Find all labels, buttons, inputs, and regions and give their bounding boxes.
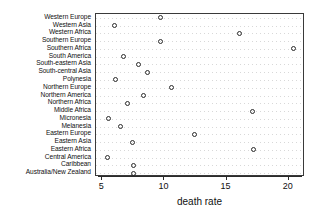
category-label: Central America: [45, 153, 91, 160]
x-axis-tick: [101, 176, 102, 180]
x-axis-line: [98, 176, 302, 177]
data-point: [136, 62, 141, 67]
data-point: [145, 70, 150, 75]
data-point: [125, 101, 130, 106]
category-axis-labels: Western EuropeWestern AsiaWestern Africa…: [0, 0, 94, 178]
data-point: [237, 31, 242, 36]
data-point: [158, 39, 163, 44]
category-label: Southern Europe: [42, 36, 91, 43]
data-point: [121, 54, 126, 59]
category-label: Middle Africa: [54, 106, 91, 113]
category-label: Southern Africa: [47, 44, 91, 51]
category-label: Eastern Asia: [55, 137, 91, 144]
data-point: [250, 109, 255, 114]
data-point: [106, 116, 111, 121]
category-label: Western Europe: [44, 13, 91, 20]
x-axis-tick-label: 5: [89, 181, 113, 191]
data-point: [158, 15, 163, 20]
data-point: [291, 46, 296, 51]
plot-panel: [95, 13, 304, 176]
data-point: [131, 163, 136, 168]
data-point: [192, 132, 197, 137]
category-label: Eastern Africa: [51, 145, 91, 152]
category-label: Micronesia: [60, 114, 91, 121]
category-label: South America: [49, 52, 91, 59]
x-axis-tick-label: 20: [276, 181, 300, 191]
category-label: Eastern Europe: [46, 129, 91, 136]
category-label: Australia/New Zealand: [26, 168, 91, 175]
category-label: Northern Europe: [43, 83, 91, 90]
data-point: [130, 140, 135, 145]
x-axis-tick-label: 10: [151, 181, 175, 191]
x-axis-tick: [288, 176, 289, 180]
category-label: South-central Asia: [38, 67, 91, 74]
data-point: [105, 155, 110, 160]
data-point: [113, 77, 118, 82]
category-label: Caribbean: [61, 160, 91, 167]
dotchart-figure: Western EuropeWestern AsiaWestern Africa…: [0, 0, 312, 215]
category-label: Melanesia: [61, 122, 91, 129]
data-point: [169, 85, 174, 90]
data-point: [141, 93, 146, 98]
data-point: [251, 147, 256, 152]
data-point: [112, 23, 117, 28]
x-axis-title: death rate: [95, 196, 304, 208]
category-label: Polynesia: [63, 75, 91, 82]
category-label: Western Africa: [49, 28, 91, 35]
x-axis-tick: [226, 176, 227, 180]
x-axis-tick-label: 15: [214, 181, 238, 191]
data-point: [131, 171, 136, 176]
data-points-layer: [96, 14, 303, 175]
category-label: Northern Africa: [48, 98, 91, 105]
x-axis-tick: [163, 176, 164, 180]
data-point: [118, 124, 123, 129]
category-label: South-eastern Asia: [36, 59, 91, 66]
category-label: Northern America: [40, 91, 91, 98]
category-label: Western Asia: [53, 21, 91, 28]
